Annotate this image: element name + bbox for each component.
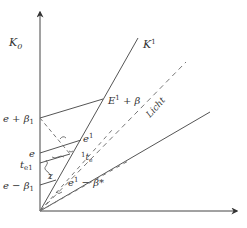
tick-label-e-plus-beta1: e + β1 (3, 113, 34, 126)
connector-te1 (40, 154, 70, 163)
tick-label-e: e (29, 148, 35, 159)
k1-label: K1 (142, 38, 156, 51)
connector-e-plus-beta (40, 99, 103, 118)
k1-space-axis (40, 112, 210, 211)
tick-label-te1: te1 (20, 159, 33, 172)
spacetime-diagram: K0 K1 Licht e + β1 e te1 e − β1 E1 + β e… (0, 0, 247, 228)
light-label: Licht (143, 95, 167, 120)
vertical-axis-label: K0 (8, 36, 22, 51)
point-label-e1-minus-beta: e1 − β* (68, 176, 104, 188)
point-label-te: 1te (81, 151, 93, 163)
right-angle-mark (60, 137, 66, 139)
light-line (40, 62, 186, 211)
point-label-E1-plus-beta: E1 + β (107, 94, 141, 106)
point-label-z: z (47, 171, 53, 181)
tick-label-e-minus-beta1: e − β1 (3, 180, 34, 193)
right-angle-mark (69, 151, 73, 152)
point-label-e1: e1 (83, 132, 93, 144)
